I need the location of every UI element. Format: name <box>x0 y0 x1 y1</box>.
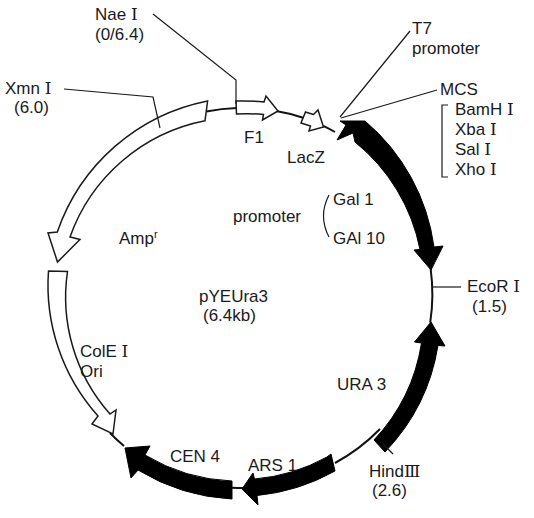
ura3-label: URA 3 <box>337 375 386 394</box>
lacz-label: LacZ <box>287 148 325 167</box>
t7-promoter-line1: T7 <box>412 19 432 38</box>
f1-label: F1 <box>244 128 264 147</box>
mcs-leader <box>341 90 437 118</box>
mcs-bracket <box>442 105 448 177</box>
nae1-position: (0/6.4) <box>95 25 144 44</box>
t7-promoter-line2: promoter <box>412 39 480 58</box>
mcs-enzyme-bamh1: BamH Ⅰ <box>455 100 514 119</box>
mcs-enzyme-sal1: Sal Ⅰ <box>455 140 491 159</box>
mcs-enzyme-xho1: Xho Ⅰ <box>455 160 497 179</box>
t7-leader <box>340 31 410 117</box>
xmn1-position: (6.0) <box>14 98 49 117</box>
ecor1-position: (1.5) <box>472 297 507 316</box>
gal1-label: Gal 1 <box>333 190 374 209</box>
ars1-label: ARS 1 <box>248 456 297 475</box>
lacz-arrow <box>301 110 324 131</box>
mcs-title: MCS <box>440 80 478 99</box>
hind3-position: (2.6) <box>372 481 407 500</box>
cen4-label: CEN 4 <box>170 447 220 466</box>
f1-arrow <box>236 96 278 120</box>
ori-label: Ori <box>80 362 103 381</box>
amp-label: Ampr <box>119 225 158 248</box>
gal10-label: GAl 10 <box>333 229 385 248</box>
plasmid-size: (6.4kb) <box>203 306 256 325</box>
nae1-leader <box>153 14 236 104</box>
mcs-enzyme-xba1: Xba Ⅰ <box>455 120 497 139</box>
nae1-label: Nae Ⅰ <box>95 5 138 24</box>
ecor1-label: EcoR Ⅰ <box>467 277 520 296</box>
cole1-label: ColE Ⅰ <box>80 342 128 361</box>
xmn1-leader <box>64 89 160 128</box>
plasmid-name: pYEUra3 <box>199 287 268 306</box>
hind3-label: HindⅢ <box>369 462 420 481</box>
xmn1-label: Xmn Ⅰ <box>5 79 51 98</box>
promoter-label: promoter <box>233 207 301 226</box>
promoter-bracket <box>324 195 330 237</box>
plasmid-map <box>0 0 534 518</box>
